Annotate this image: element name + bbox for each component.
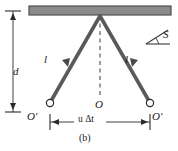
vertical-dimension-arrow-icon-bottom xyxy=(10,103,16,110)
label-origin-right: O′ xyxy=(152,111,162,122)
open-circle-icon-right xyxy=(146,99,153,106)
figure-drawing xyxy=(0,0,178,151)
label-origin-center: O xyxy=(95,99,103,110)
ceiling-bar-icon xyxy=(29,6,171,15)
rod-arrow-icon-right xyxy=(130,58,138,67)
physics-figure: d l l O O′ O′ u Δt S (b) xyxy=(0,0,178,151)
rod-left xyxy=(51,16,100,101)
vertical-dimension-arrow-icon-top xyxy=(10,13,16,20)
label-height-d: d xyxy=(13,66,19,77)
figure-caption: (b) xyxy=(79,133,91,143)
horizontal-dimension-arrow-icon-left xyxy=(52,119,59,125)
label-separation: u Δt xyxy=(78,115,94,125)
label-rod-left: l xyxy=(44,54,47,65)
label-origin-left: O′ xyxy=(27,111,37,122)
open-circle-icon-left xyxy=(46,99,53,106)
label-frame-s: S xyxy=(163,29,169,40)
label-rod-right: l xyxy=(125,54,128,65)
rod-arrow-icon-left xyxy=(62,58,70,67)
horizontal-dimension-arrow-icon-right xyxy=(141,119,148,125)
